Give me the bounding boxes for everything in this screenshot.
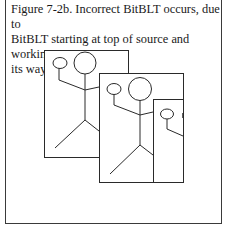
bitblt-illustration bbox=[0, 0, 226, 241]
second-copy-frame bbox=[154, 100, 184, 183]
